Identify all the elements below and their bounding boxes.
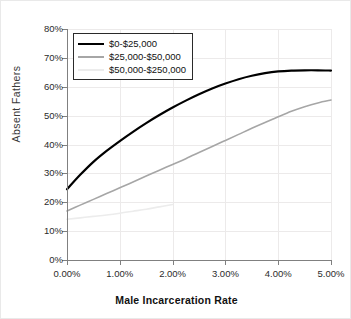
y-tick-label: 10%	[1, 225, 63, 236]
x-axis-line	[67, 260, 332, 261]
series-line-3	[67, 205, 173, 220]
y-tick-label: 30%	[1, 167, 63, 178]
x-tick-label: 0.00%	[37, 268, 97, 279]
y-tick-label: 0%	[1, 254, 63, 265]
x-tick-label: 5.00%	[301, 268, 351, 279]
x-tick-label: 2.00%	[143, 268, 203, 279]
x-tick-label: 3.00%	[195, 268, 255, 279]
y-tick-label: 20%	[1, 196, 63, 207]
legend-swatch-icon	[78, 43, 104, 45]
x-tick-mark	[278, 260, 279, 265]
x-axis-title: Male Incarceration Rate	[1, 294, 351, 306]
gridline-vertical	[331, 29, 332, 260]
legend-label: $0-$25,000	[109, 38, 157, 49]
x-tick-mark	[67, 260, 68, 265]
x-tick-mark	[173, 260, 174, 265]
x-tick-label: 1.00%	[90, 268, 150, 279]
series-line-2	[67, 100, 331, 211]
x-tick-mark	[331, 260, 332, 265]
legend-item[interactable]: $0-$25,000	[78, 37, 186, 50]
legend-swatch-icon	[78, 69, 104, 71]
x-tick-mark	[120, 260, 121, 265]
series-line-1	[67, 70, 331, 189]
y-axis-title: Absent Fathers	[10, 49, 22, 159]
legend-label: $50,000-$250,000	[109, 64, 186, 75]
legend: $0-$25,000$25,000-$50,000$50,000-$250,00…	[73, 33, 193, 80]
y-axis-line	[67, 29, 68, 261]
legend-swatch-icon	[78, 56, 104, 58]
x-tick-mark	[225, 260, 226, 265]
legend-item[interactable]: $50,000-$250,000	[78, 63, 186, 76]
legend-item[interactable]: $25,000-$50,000	[78, 50, 186, 63]
chart-figure: 0%10%20%30%40%50%60%70%80% 0.00%1.00%2.0…	[0, 0, 351, 319]
legend-label: $25,000-$50,000	[109, 51, 181, 62]
y-tick-label: 80%	[1, 23, 63, 34]
x-tick-label: 4.00%	[248, 268, 308, 279]
